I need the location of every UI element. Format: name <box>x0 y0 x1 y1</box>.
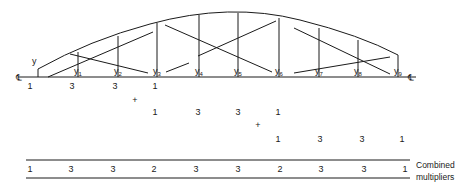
combined-value: 3 <box>361 164 366 174</box>
ordinate-label: y <box>32 56 37 66</box>
multiplier-value: 3 <box>112 81 117 91</box>
ordinate-label: y2 <box>114 66 123 77</box>
combined-value: 3 <box>68 164 73 174</box>
truss-diagonals <box>48 21 390 77</box>
combined-value: 3 <box>110 164 115 174</box>
arch-curve <box>38 12 398 69</box>
plus-sign: + <box>132 95 137 105</box>
combined-value: 3 <box>193 164 198 174</box>
centerline-symbol-right: ℄ <box>407 73 414 83</box>
multiplier-value: 1 <box>275 107 280 117</box>
ordinate-label: y8 <box>354 66 363 77</box>
ordinate-label: y4 <box>195 66 204 77</box>
plus-sign: + <box>255 120 260 130</box>
combined-label-line1: Combined <box>416 160 455 170</box>
combined-multipliers: 1332332331 <box>27 164 407 174</box>
ordinate-label: y1 <box>74 66 83 77</box>
multiplier-value: 3 <box>195 107 200 117</box>
combined-value: 2 <box>277 164 282 174</box>
multiplier-value: 1 <box>152 107 157 117</box>
combined-value: 1 <box>27 164 32 174</box>
ordinate-label: y5 <box>234 66 243 77</box>
centerline-symbol-left: ℄ <box>15 73 22 83</box>
ordinate-label: y3 <box>153 66 162 77</box>
multiplier-value: 3 <box>69 81 74 91</box>
multiplier-value: 1 <box>152 81 157 91</box>
multiplier-value: 3 <box>317 134 322 144</box>
multiplier-value: 3 <box>359 134 364 144</box>
combined-value: 3 <box>318 164 323 174</box>
arch-diagram: yy1y2y3y4y5y6y7y8y9 ℄ ℄ 133113311331 ++ … <box>0 0 472 190</box>
ordinate-label: y7 <box>315 66 324 77</box>
multiplier-value: 1 <box>27 81 32 91</box>
combined-value: 3 <box>235 164 240 174</box>
ordinate-label: y6 <box>275 66 284 77</box>
multiplier-value: 3 <box>235 107 240 117</box>
ordinate-label: y9 <box>394 66 403 77</box>
multiplier-rows: 133113311331 <box>27 81 404 144</box>
ordinate-labels: yy1y2y3y4y5y6y7y8y9 <box>32 56 403 77</box>
combined-value: 2 <box>151 164 156 174</box>
combined-label-line2: multipliers <box>416 172 454 182</box>
multiplier-value: 1 <box>275 134 280 144</box>
multiplier-value: 1 <box>399 134 404 144</box>
combined-value: 1 <box>402 164 407 174</box>
